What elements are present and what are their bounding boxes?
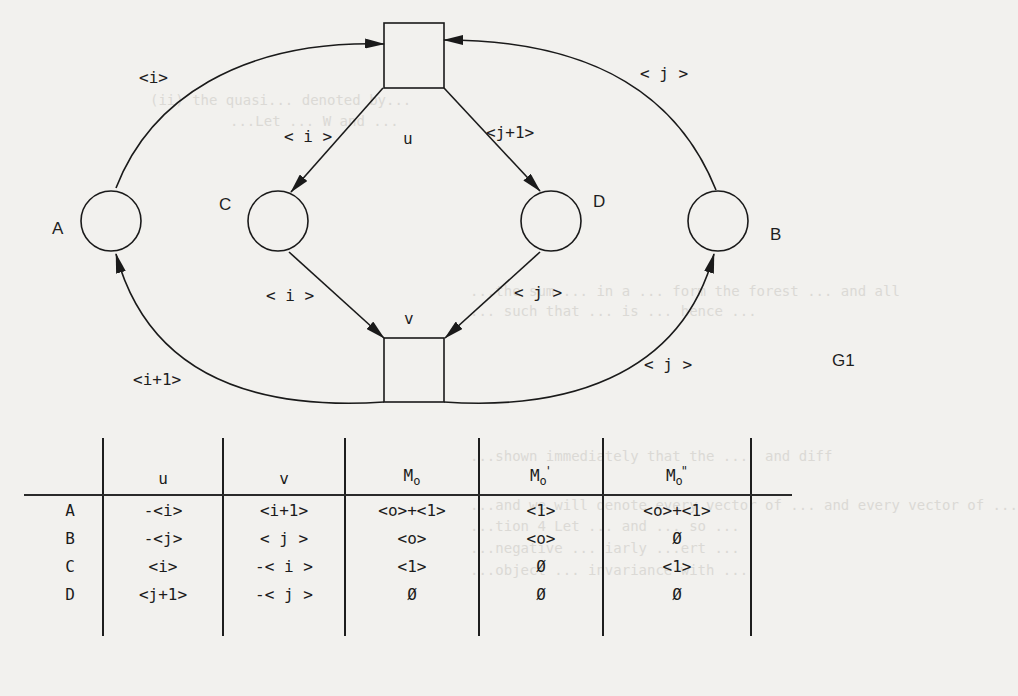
table-row: A -<i> <i+1> <o>+<1> <1> <o>+<1> bbox=[24, 495, 792, 524]
header-m0-prime: Mo' bbox=[479, 438, 603, 495]
table-header-row: u v Mo Mo' Mo" bbox=[24, 438, 792, 495]
header-end-rule bbox=[751, 438, 792, 495]
arc-label-d-v: < j > bbox=[514, 284, 562, 302]
cell-place: B bbox=[24, 524, 103, 552]
cell-v: <i+1> bbox=[223, 495, 345, 524]
cell-v: < j > bbox=[223, 524, 345, 552]
header-v: v bbox=[223, 438, 345, 495]
table-tail-row bbox=[24, 608, 792, 636]
place-b-circle bbox=[688, 191, 748, 251]
cell-u: <j+1> bbox=[103, 580, 223, 608]
cell-m0-double-prime: <o>+<1> bbox=[603, 495, 751, 524]
place-d-circle bbox=[521, 191, 581, 251]
cell-m0-prime: <1> bbox=[479, 495, 603, 524]
cell-tail bbox=[103, 608, 223, 636]
header-u: u bbox=[103, 438, 223, 495]
transition-u-label: u bbox=[403, 130, 413, 148]
place-d-label: D bbox=[593, 193, 605, 211]
cell-tail bbox=[345, 608, 479, 636]
arc-label-u-d: <j+1> bbox=[486, 124, 534, 142]
place-a-circle bbox=[81, 191, 141, 251]
cell-tail bbox=[223, 608, 345, 636]
petri-net-diagram bbox=[0, 0, 888, 430]
cell-tail bbox=[479, 608, 603, 636]
figure-label-g1: G1 bbox=[832, 352, 855, 370]
cell-tail bbox=[751, 608, 792, 636]
cell-m0: <1> bbox=[345, 552, 479, 580]
cell-place: A bbox=[24, 495, 103, 524]
header-m0-double-prime: Mo" bbox=[603, 438, 751, 495]
cell-m0: <o> bbox=[345, 524, 479, 552]
cell-m0-double-prime: Ø bbox=[603, 524, 751, 552]
transition-v-label: v bbox=[404, 310, 414, 328]
cell-place: C bbox=[24, 552, 103, 580]
cell-tail bbox=[24, 608, 103, 636]
cell-end-rule bbox=[751, 524, 792, 552]
arc-label-v-b: < j > bbox=[644, 356, 692, 374]
arc-label-v-a: <i+1> bbox=[133, 371, 181, 389]
cell-m0-prime: Ø bbox=[479, 580, 603, 608]
arc-label-c-v: < i > bbox=[266, 287, 314, 305]
cell-m0-prime: Ø bbox=[479, 552, 603, 580]
cell-u: -<j> bbox=[103, 524, 223, 552]
arc-label-u-c: < i > bbox=[284, 128, 332, 146]
cell-end-rule bbox=[751, 552, 792, 580]
incidence-marking-table: u v Mo Mo' Mo" A -<i> <i+1> <o>+<1> <1> … bbox=[24, 438, 792, 636]
transition-v-box bbox=[384, 338, 444, 402]
arc-v-to-b bbox=[444, 254, 714, 403]
arc-label-b-u: < j > bbox=[640, 65, 688, 83]
cell-m0: Ø bbox=[345, 580, 479, 608]
cell-m0-prime: <o> bbox=[479, 524, 603, 552]
cell-m0-double-prime: <1> bbox=[603, 552, 751, 580]
cell-u: -<i> bbox=[103, 495, 223, 524]
table-row: B -<j> < j > <o> <o> Ø bbox=[24, 524, 792, 552]
transition-u-box bbox=[384, 23, 444, 88]
cell-place: D bbox=[24, 580, 103, 608]
place-b-label: B bbox=[770, 226, 781, 244]
cell-u: <i> bbox=[103, 552, 223, 580]
cell-v: -< i > bbox=[223, 552, 345, 580]
cell-tail bbox=[603, 608, 751, 636]
cell-m0-double-prime: Ø bbox=[603, 580, 751, 608]
place-a-label: A bbox=[52, 220, 63, 238]
arc-a-to-u bbox=[116, 44, 384, 188]
table-row: C <i> -< i > <1> Ø <1> bbox=[24, 552, 792, 580]
place-c-label: C bbox=[219, 196, 231, 214]
header-m0: Mo bbox=[345, 438, 479, 495]
cell-v: -< j > bbox=[223, 580, 345, 608]
cell-m0: <o>+<1> bbox=[345, 495, 479, 524]
arc-b-to-u bbox=[444, 40, 716, 190]
arc-label-a-u: <i> bbox=[139, 69, 168, 87]
cell-end-rule bbox=[751, 580, 792, 608]
header-place bbox=[24, 438, 103, 495]
table-row: D <j+1> -< j > Ø Ø Ø bbox=[24, 580, 792, 608]
cell-end-rule bbox=[751, 495, 792, 524]
place-c-circle bbox=[248, 191, 308, 251]
